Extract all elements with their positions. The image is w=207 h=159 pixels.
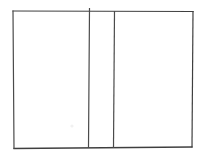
drawing-canvas: Line drawing of a rectangle divided into… — [0, 0, 207, 159]
divider-right-handle[interactable] — [111, 11, 117, 149]
right-panel-region[interactable] — [114, 11, 193, 148]
left-panel-region[interactable] — [13, 11, 89, 148]
divider-left-handle[interactable] — [86, 8, 92, 149]
